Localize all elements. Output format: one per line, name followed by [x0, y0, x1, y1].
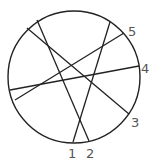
circle [8, 11, 140, 143]
chord-4 [10, 66, 139, 90]
chord-5 [15, 33, 124, 100]
chord-diagram: 12345 [0, 0, 158, 162]
labels-group: 12345 [68, 24, 149, 161]
chord-label-2: 2 [86, 146, 94, 161]
chord-label-4: 4 [141, 61, 149, 76]
chord-label-5: 5 [128, 24, 136, 39]
chord-label-1: 1 [68, 146, 76, 161]
chord-label-3: 3 [131, 115, 139, 130]
